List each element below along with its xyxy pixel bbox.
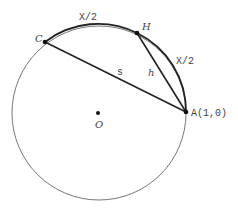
- point-o: [96, 111, 100, 115]
- label-h: H: [141, 21, 151, 32]
- label-h-chord: h: [148, 67, 154, 78]
- label-o: O: [95, 119, 103, 130]
- label-c: C: [35, 33, 43, 44]
- label-arc-ha: X/2: [176, 56, 194, 67]
- point-a: [184, 110, 189, 115]
- label-a: A(1,0): [191, 108, 227, 119]
- label-s: s: [117, 67, 123, 78]
- point-h: [135, 31, 140, 36]
- diagram-canvas: C H A(1,0) O X/2 X/2 s h: [0, 0, 238, 211]
- point-c: [43, 40, 48, 45]
- label-arc-ch: X/2: [79, 12, 97, 23]
- circle-chord-diagram: C H A(1,0) O X/2 X/2 s h: [0, 0, 238, 211]
